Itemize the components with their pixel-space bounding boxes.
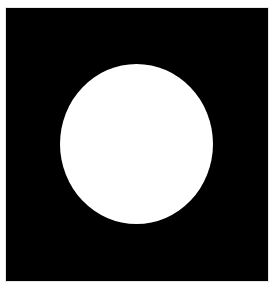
black-square-background (6, 8, 268, 281)
white-circle (60, 64, 213, 224)
